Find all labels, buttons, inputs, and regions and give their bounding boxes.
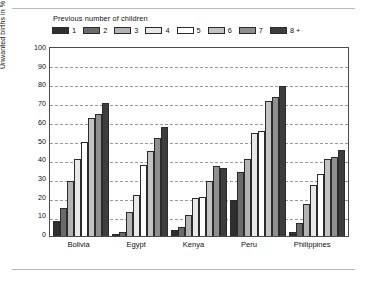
bar-group: [112, 48, 168, 236]
legend-item[interactable]: 8 +: [270, 26, 300, 35]
bar[interactable]: [112, 234, 119, 236]
bar[interactable]: [119, 232, 126, 236]
bar[interactable]: [317, 174, 324, 236]
y-axis-tick-label: 10: [38, 211, 46, 220]
bar[interactable]: [289, 232, 296, 236]
legend-item-label: 2: [103, 26, 107, 35]
bar-group: [230, 48, 286, 236]
y-axis-tick-label: 20: [38, 192, 46, 201]
bar[interactable]: [279, 86, 286, 236]
legend-swatch-icon: [52, 27, 69, 34]
bar-group: [289, 48, 345, 236]
legend-swatch-icon: [177, 27, 194, 34]
bar[interactable]: [178, 227, 185, 236]
legend-item[interactable]: 4: [145, 26, 169, 35]
bar[interactable]: [60, 208, 67, 236]
bar[interactable]: [230, 200, 237, 236]
bottom-rule: [12, 269, 355, 270]
bar[interactable]: [213, 166, 220, 236]
bar[interactable]: [331, 157, 338, 236]
bar[interactable]: [126, 212, 133, 236]
bar[interactable]: [53, 221, 60, 236]
legend-swatch-icon: [145, 27, 162, 34]
bar[interactable]: [88, 118, 95, 236]
plot-area: [49, 47, 349, 237]
bar-group: [53, 48, 109, 236]
bar[interactable]: [310, 185, 317, 236]
legend-title: Previous number of children: [53, 14, 307, 23]
bar[interactable]: [258, 131, 265, 236]
legend-item-label: 8 +: [290, 26, 300, 35]
legend-swatch-icon: [83, 27, 100, 34]
bar[interactable]: [296, 223, 303, 236]
bar[interactable]: [67, 181, 74, 236]
bar[interactable]: [161, 127, 168, 236]
bar[interactable]: [199, 197, 206, 236]
bar[interactable]: [220, 168, 227, 236]
bar[interactable]: [272, 97, 279, 236]
bar[interactable]: [81, 142, 88, 236]
legend-item-label: 7: [259, 26, 263, 35]
bar[interactable]: [324, 159, 331, 236]
bar[interactable]: [171, 230, 178, 236]
legend-swatch-icon: [239, 27, 256, 34]
y-axis-tick-label: 30: [38, 173, 46, 182]
legend-item[interactable]: 7: [239, 26, 263, 35]
bar[interactable]: [251, 133, 258, 236]
legend-item-label: 6: [228, 26, 232, 35]
bar[interactable]: [265, 101, 272, 236]
x-axis-label: Kenya: [183, 240, 205, 249]
bar[interactable]: [74, 159, 81, 236]
x-axis-labels: BoliviaEgyptKenyaPeruPhilippines: [49, 240, 349, 249]
legend-items: 12345678 +: [52, 26, 307, 35]
x-axis-label: Bolivia: [67, 240, 89, 249]
bar[interactable]: [140, 165, 147, 236]
legend-swatch-icon: [208, 27, 225, 34]
y-axis-tick-label: 100: [34, 43, 46, 52]
bar[interactable]: [102, 103, 109, 236]
y-axis-tick-label: 80: [38, 80, 46, 89]
y-axis-tick-label: 60: [38, 117, 46, 126]
y-axis-tick-label: 70: [38, 99, 46, 108]
legend-swatch-icon: [114, 27, 131, 34]
bar[interactable]: [206, 181, 213, 236]
bar-groups: [50, 48, 348, 236]
chart-figure: Previous number of children 12345678 + U…: [0, 0, 367, 282]
legend-item[interactable]: 1: [52, 26, 76, 35]
y-axis-tick-label: 90: [38, 61, 46, 70]
bar[interactable]: [133, 195, 140, 236]
legend-item[interactable]: 2: [83, 26, 107, 35]
bar[interactable]: [154, 138, 161, 236]
bar[interactable]: [303, 204, 310, 236]
x-axis-label: Egypt: [127, 240, 146, 249]
bar[interactable]: [185, 215, 192, 236]
bar[interactable]: [338, 150, 345, 236]
legend-swatch-icon: [270, 27, 287, 34]
bar-group: [171, 48, 227, 236]
top-rule: [12, 8, 355, 9]
y-axis-tick-label: 50: [38, 136, 46, 145]
bar[interactable]: [237, 172, 244, 236]
legend-item[interactable]: 3: [114, 26, 138, 35]
y-axis-tick-label: 0: [42, 230, 46, 239]
bar[interactable]: [192, 198, 199, 236]
legend-item-label: 4: [165, 26, 169, 35]
legend-item[interactable]: 6: [208, 26, 232, 35]
bar[interactable]: [147, 151, 154, 236]
bar[interactable]: [95, 114, 102, 236]
bar[interactable]: [244, 159, 251, 236]
legend-item-label: 3: [134, 26, 138, 35]
legend-item-label: 5: [197, 26, 201, 35]
y-axis-title: Unwanted births in %: [0, 0, 6, 95]
chart-legend: Previous number of children 12345678 +: [52, 14, 307, 35]
legend-item[interactable]: 5: [177, 26, 201, 35]
y-axis-tick-label: 40: [38, 155, 46, 164]
legend-item-label: 1: [72, 26, 76, 35]
x-axis-label: Peru: [241, 240, 257, 249]
x-axis-label: Philippines: [294, 240, 331, 249]
y-axis-ticks: 1009080706050403020100: [26, 44, 46, 238]
